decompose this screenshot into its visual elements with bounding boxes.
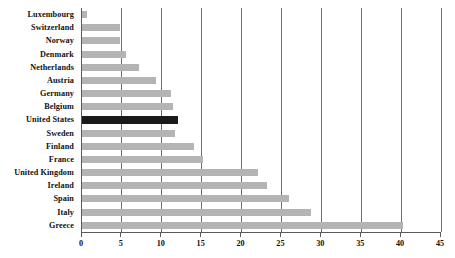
category-label: Spain <box>0 192 78 205</box>
category-label: United States <box>0 113 78 126</box>
bar-row <box>82 21 441 34</box>
bar-row <box>82 100 441 113</box>
category-label: Netherlands <box>0 61 78 74</box>
tick-mark <box>120 233 121 237</box>
tick-label: 20 <box>236 239 244 248</box>
tick-mark <box>160 233 161 237</box>
bar-row <box>82 8 441 21</box>
tick-label: 35 <box>356 239 364 248</box>
bar <box>82 209 311 216</box>
tick-label: 5 <box>119 239 123 248</box>
bar <box>82 169 258 176</box>
category-label: Belgium <box>0 100 78 113</box>
tick-label: 30 <box>316 239 324 248</box>
bar-row <box>82 74 441 87</box>
tick-label: 45 <box>436 239 444 248</box>
category-label: Switzerland <box>0 21 78 34</box>
tick-mark <box>360 233 361 237</box>
tick-mark <box>240 233 241 237</box>
category-axis-labels: LuxembourgSwitzerlandNorwayDenmarkNether… <box>0 8 78 232</box>
bar-row <box>82 61 441 74</box>
bar <box>82 24 120 31</box>
category-label: France <box>0 153 78 166</box>
bar-row <box>82 166 441 179</box>
bar-row <box>82 48 441 61</box>
bar <box>82 90 171 97</box>
bar-row <box>82 219 441 232</box>
bar-row <box>82 206 441 219</box>
category-label: United Kingdom <box>0 166 78 179</box>
tick-mark <box>440 233 441 237</box>
tick-label: 0 <box>79 239 83 248</box>
bar <box>82 130 175 137</box>
bar-row <box>82 127 441 140</box>
bar <box>82 11 87 18</box>
bar <box>82 37 120 44</box>
tick-label: 10 <box>157 239 165 248</box>
bar-row <box>82 34 441 47</box>
bar-row <box>82 113 441 126</box>
bar-row <box>82 192 441 205</box>
bar <box>82 222 403 229</box>
bar <box>82 143 194 150</box>
bar-row <box>82 140 441 153</box>
bar-highlighted <box>82 116 178 124</box>
bar-row <box>82 87 441 100</box>
bar <box>82 64 139 71</box>
category-label: Greece <box>0 219 78 232</box>
category-label: Italy <box>0 206 78 219</box>
bar <box>82 182 267 189</box>
tick-mark <box>320 233 321 237</box>
tick-mark <box>81 233 82 237</box>
value-axis: 051015202530354045 <box>81 233 440 255</box>
bar-row <box>82 153 441 166</box>
bar <box>82 51 126 58</box>
bar-chart: LuxembourgSwitzerlandNorwayDenmarkNether… <box>0 0 455 258</box>
category-label: Austria <box>0 74 78 87</box>
tick-mark <box>400 233 401 237</box>
bar <box>82 103 173 110</box>
bar <box>82 195 289 202</box>
category-label: Sweden <box>0 127 78 140</box>
category-label: Norway <box>0 34 78 47</box>
category-label: Germany <box>0 87 78 100</box>
category-label: Denmark <box>0 48 78 61</box>
tick-mark <box>200 233 201 237</box>
tick-label: 15 <box>197 239 205 248</box>
plot-area <box>81 8 441 233</box>
bar-row <box>82 179 441 192</box>
tick-mark <box>280 233 281 237</box>
category-label: Finland <box>0 140 78 153</box>
bar <box>82 77 156 84</box>
category-label: Ireland <box>0 179 78 192</box>
bar <box>82 156 203 163</box>
category-label: Luxembourg <box>0 8 78 21</box>
bar-series <box>82 8 441 232</box>
tick-label: 25 <box>276 239 284 248</box>
tick-label: 40 <box>396 239 404 248</box>
